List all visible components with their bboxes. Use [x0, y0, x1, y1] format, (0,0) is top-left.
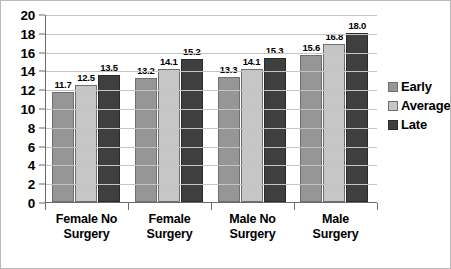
y-axis-tick-label: 4 [28, 158, 35, 173]
legend-label: Average [401, 98, 450, 113]
bar-value-label: 14.1 [160, 56, 177, 67]
x-axis-labels: Female NoSurgeryFemaleSurgeryMale NoSurg… [45, 212, 377, 243]
x-axis-category-line: Surgery [294, 227, 377, 242]
x-axis-category-label: Female NoSurgery [45, 212, 128, 243]
y-axis-tick-label: 8 [28, 120, 35, 135]
y-axis-tick-label: 10 [20, 102, 35, 117]
y-axis-tick-label: 0 [28, 196, 35, 211]
x-axis-category-line: Male [294, 212, 377, 227]
legend-item-early[interactable]: Early [388, 79, 450, 94]
x-axis-category-label: FemaleSurgery [128, 212, 211, 243]
legend-item-late[interactable]: Late [388, 117, 450, 132]
plot-area: 11.712.513.513.214.115.213.314.115.315.6… [45, 15, 377, 203]
legend-item-average[interactable]: Average [388, 98, 450, 113]
gridline [46, 184, 377, 185]
bar-value-label: 14.1 [243, 56, 260, 67]
gridline [46, 53, 377, 54]
bar-value-label: 12.5 [77, 72, 94, 83]
x-axis-category-line: Surgery [211, 227, 294, 242]
bar-value-label: 11.7 [55, 79, 72, 90]
legend-swatch-icon [388, 101, 398, 111]
x-axis-tick [294, 203, 295, 210]
legend-swatch-icon [388, 82, 398, 92]
bar-late[interactable]: 13.5 [98, 75, 120, 202]
bar-value-label: 18.0 [349, 20, 366, 31]
chart-legend: EarlyAverageLate [388, 79, 450, 136]
legend-label: Early [401, 79, 432, 94]
gridline [46, 147, 377, 148]
gridline [46, 90, 377, 91]
y-axis: 20181614121086420 [1, 15, 41, 203]
x-axis-tick [45, 203, 46, 210]
y-axis-tick-label: 18 [20, 26, 35, 41]
x-axis-category-line: Male No [211, 212, 294, 227]
x-axis-ticks [45, 203, 377, 210]
y-axis-tick-label: 2 [28, 177, 35, 192]
y-axis-tick-label: 14 [20, 64, 35, 79]
y-axis-tick-label: 12 [20, 83, 35, 98]
x-axis-category-label: Male NoSurgery [211, 212, 294, 243]
bar-chart: 20181614121086420 11.712.513.513.214.115… [0, 0, 451, 269]
bar-value-label: 15.3 [266, 45, 283, 56]
gridline [46, 15, 377, 16]
gridline [46, 109, 377, 110]
y-axis-tick-label: 6 [28, 139, 35, 154]
x-axis-category-line: Female [128, 212, 211, 227]
x-axis-tick [377, 203, 378, 210]
x-axis-category-line: Female No [45, 212, 128, 227]
bar-late[interactable]: 15.3 [264, 58, 286, 202]
x-axis-category-line: Surgery [45, 227, 128, 242]
y-axis-tick-label: 16 [20, 45, 35, 60]
x-axis-category-line: Surgery [128, 227, 211, 242]
bar-value-label: 16.8 [326, 31, 343, 42]
bar-average[interactable]: 16.8 [323, 44, 345, 202]
x-axis-tick [211, 203, 212, 210]
legend-label: Late [401, 117, 427, 132]
x-axis-category-label: MaleSurgery [294, 212, 377, 243]
bar-value-label: 13.3 [220, 64, 237, 75]
x-axis-tick [128, 203, 129, 210]
gridline [46, 34, 377, 35]
gridline [46, 165, 377, 166]
bar-late[interactable]: 18.0 [346, 33, 368, 202]
legend-swatch-icon [388, 120, 398, 130]
gridline [46, 128, 377, 129]
y-axis-tick-label: 20 [20, 8, 35, 23]
bar-late[interactable]: 15.2 [181, 59, 203, 202]
gridline [46, 71, 377, 72]
